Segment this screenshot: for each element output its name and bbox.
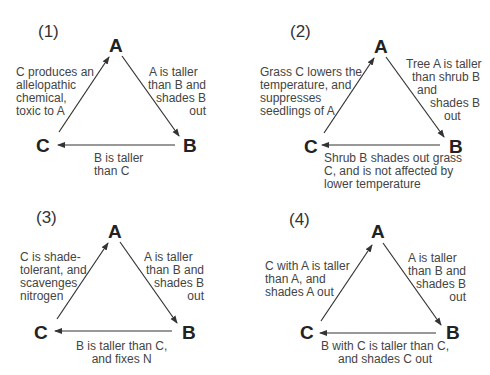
node-a: A bbox=[371, 221, 385, 243]
node-c: C bbox=[34, 322, 48, 344]
node-a: A bbox=[374, 36, 388, 58]
edge-label-b-to-c: B with C is taller than C,and shades C o… bbox=[321, 340, 449, 366]
node-b: B bbox=[183, 135, 197, 157]
panel-number: (1) bbox=[38, 22, 59, 42]
panel-number: (4) bbox=[289, 210, 310, 230]
node-c: C bbox=[300, 322, 314, 344]
edge-label-a-to-b: A is tallerthan B andshades Bout bbox=[140, 66, 206, 118]
edge-label-c-to-a: C with A is tallerthan A, andshades A ou… bbox=[265, 260, 350, 299]
edge-label-c-to-a: C is shade-tolerant, andscavengesnitroge… bbox=[20, 251, 87, 303]
edge-label-a-to-b: Tree A is taller than shrub B and shades… bbox=[406, 58, 486, 123]
panel-number: (2) bbox=[290, 22, 311, 42]
node-a: A bbox=[109, 35, 123, 57]
panel-number: (3) bbox=[36, 208, 57, 228]
node-b: B bbox=[182, 322, 196, 344]
node-c: C bbox=[304, 136, 318, 158]
edge-label-b-to-c: B is taller than C,and fixes N bbox=[76, 340, 167, 366]
edge-label-a-to-b: A is tallerthan B andshades Bout bbox=[137, 251, 204, 303]
node-c: C bbox=[36, 135, 50, 157]
edge-label-c-to-a: C produces anallelopathicchemical,toxic … bbox=[16, 66, 94, 118]
node-a: A bbox=[108, 221, 122, 243]
edge-label-b-to-c: B is tallerthan C bbox=[94, 152, 143, 178]
edge-label-a-to-b: A is tallerthan B andshades Bout bbox=[400, 252, 466, 304]
edge-label-c-to-a: Grass C lowers thetemperature, andsuppre… bbox=[260, 66, 362, 118]
edge-label-b-to-c: Shrub B shades out grassC, and is not af… bbox=[324, 152, 462, 191]
